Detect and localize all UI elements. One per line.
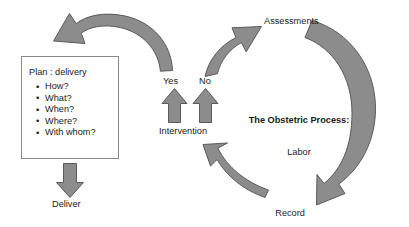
plan-box-item-label: What? xyxy=(45,93,72,103)
plan-box-item-label: When? xyxy=(45,104,74,114)
node-label-intervention: Intervention xyxy=(159,126,207,137)
bullet-icon: • xyxy=(36,92,39,103)
diagram-center-title-line1: The Obstetric Process: xyxy=(242,115,356,126)
diagram-center-title-line2: Labor xyxy=(242,147,356,158)
branch-label-yes: Yes xyxy=(163,76,178,87)
node-label-record-keeping: Record keeping xyxy=(274,186,306,227)
plan-box-item-list: • How? • What? • When? • Where? • With w… xyxy=(36,81,96,139)
plan-box-item: • What? xyxy=(36,93,96,103)
diagram-canvas: Plan : delivery • How? • What? • When? •… xyxy=(0,0,409,227)
intervention-yes-arrow xyxy=(162,89,187,123)
node-label-deliver: Deliver xyxy=(52,199,81,210)
bullet-icon: • xyxy=(36,127,39,138)
plan-to-deliver-arrow xyxy=(57,164,84,198)
plan-box-title: Plan : delivery xyxy=(29,67,87,78)
plan-box-item-label: Where? xyxy=(45,116,77,126)
bullet-icon: • xyxy=(36,104,39,115)
bullet-icon: • xyxy=(36,81,39,92)
plan-box-item-label: How? xyxy=(45,81,69,91)
plan-box-item: • Where? xyxy=(36,116,96,126)
bullet-icon: • xyxy=(36,115,39,126)
plan-box-item: • When? xyxy=(36,104,96,114)
branch-label-no: No xyxy=(199,76,211,87)
plan-box-item-label: With whom? xyxy=(45,127,96,137)
plan-box-item: • How? xyxy=(36,81,96,91)
diagram-center-title: The Obstetric Process: Labor xyxy=(242,93,356,180)
intervention-no-arrow xyxy=(193,89,218,123)
node-label-record-keeping-line1: Record xyxy=(274,208,306,219)
node-label-assessments: Assessments xyxy=(264,16,319,27)
plan-box-item: • With whom? xyxy=(36,127,96,137)
no-to-assessments-arrow xyxy=(205,27,262,77)
